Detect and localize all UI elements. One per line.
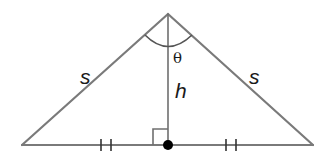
left-side	[22, 14, 168, 145]
theta-label: θ	[173, 49, 182, 67]
right-side	[168, 14, 313, 145]
right-side-label: s	[249, 65, 260, 88]
left-side-label: s	[80, 65, 91, 88]
height-label: h	[175, 79, 187, 102]
diagram-svg: θ h s s	[0, 0, 333, 162]
isosceles-triangle-diagram: θ h s s	[0, 0, 333, 162]
foot-point-dot	[163, 140, 173, 150]
